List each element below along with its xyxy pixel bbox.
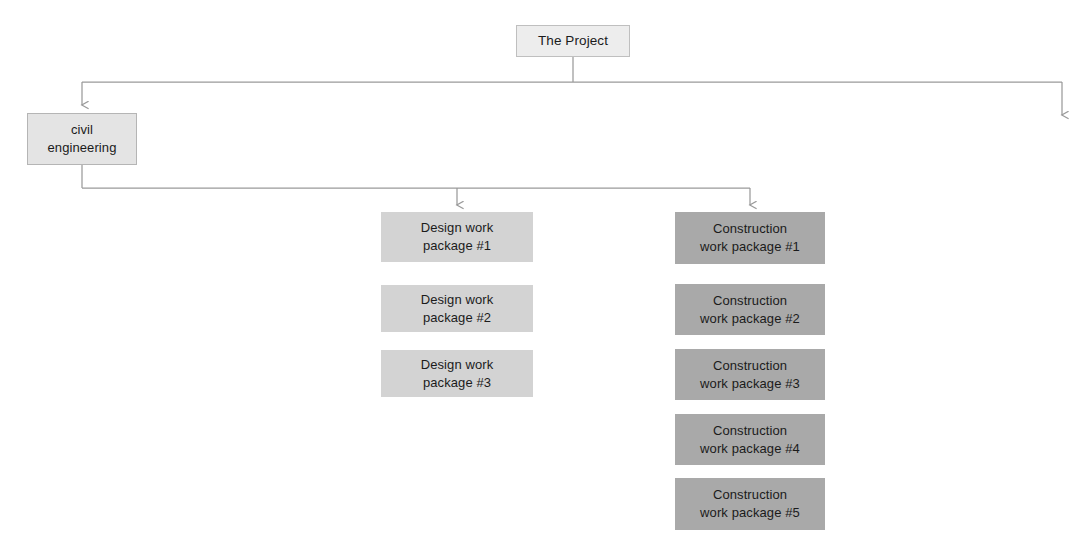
- node-label: Design work package #3: [381, 356, 533, 391]
- node-the-project[interactable]: The Project: [516, 25, 630, 57]
- wbs-diagram: The Project civil engineering Design wor…: [0, 0, 1091, 546]
- node-construction-work-package-1[interactable]: Construction work package #1: [675, 212, 825, 264]
- node-design-work-package-1[interactable]: Design work package #1: [381, 212, 533, 262]
- node-design-work-package-3[interactable]: Design work package #3: [381, 350, 533, 397]
- node-label: civil engineering: [28, 121, 136, 156]
- node-label: Construction work package #1: [675, 220, 825, 255]
- node-construction-work-package-5[interactable]: Construction work package #5: [675, 478, 825, 530]
- node-construction-work-package-4[interactable]: Construction work package #4: [675, 414, 825, 465]
- node-civil-engineering[interactable]: civil engineering: [27, 113, 137, 165]
- node-label: Construction work package #3: [675, 357, 825, 392]
- node-label: The Project: [517, 32, 629, 50]
- node-label: Construction work package #4: [675, 422, 825, 457]
- node-label: Design work package #2: [381, 291, 533, 326]
- node-label: Construction work package #5: [675, 486, 825, 521]
- node-construction-work-package-3[interactable]: Construction work package #3: [675, 349, 825, 400]
- node-construction-work-package-2[interactable]: Construction work package #2: [675, 284, 825, 335]
- node-label: Design work package #1: [381, 219, 533, 254]
- node-design-work-package-2[interactable]: Design work package #2: [381, 285, 533, 332]
- connector-lines: [0, 0, 1091, 546]
- node-label: Construction work package #2: [675, 292, 825, 327]
